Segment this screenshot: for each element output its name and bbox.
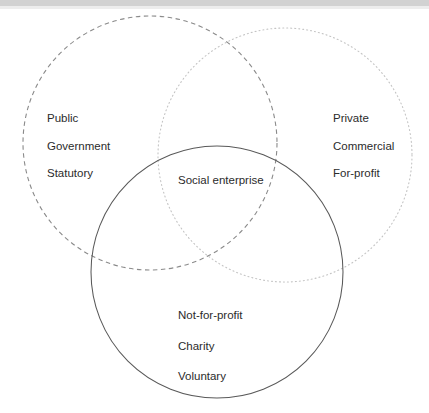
public-sector-line-2: Government [47,141,110,153]
venn-diagram: Public Government Statutory Private Comm… [0,0,429,413]
third-sector-line-1: Not-for-profit [178,310,243,322]
social-enterprise-label: Social enterprise [178,175,264,187]
social-enterprise-label-group: Social enterprise [178,175,264,187]
private-sector-label-group: Private Commercial For-profit [333,113,394,180]
private-sector-line-1: Private [333,113,394,125]
public-sector-label-group: Public Government Statutory [47,113,110,180]
third-sector-line-2: Charity [178,341,243,353]
third-sector-label-group: Not-for-profit Charity Voluntary [178,310,243,402]
public-sector-line-1: Public [47,113,110,125]
public-sector-line-3: Statutory [47,168,110,180]
private-sector-line-3: For-profit [333,168,394,180]
third-sector-line-3: Voluntary [178,371,243,383]
private-sector-line-2: Commercial [333,141,394,153]
